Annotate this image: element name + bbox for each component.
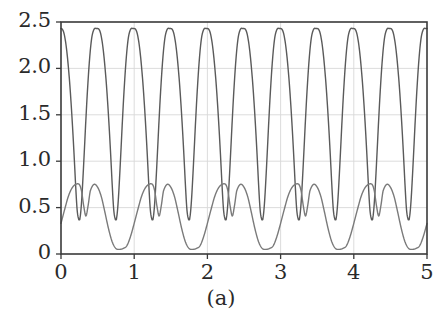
x-tick-label: 0: [41, 260, 81, 284]
x-tick-label: 5: [407, 260, 442, 284]
y-tick-label: 0.5: [18, 194, 51, 218]
y-tick-label: 1.0: [18, 147, 51, 171]
curve-lower-double-hump: [61, 184, 427, 250]
x-tick-label: 1: [114, 260, 154, 284]
x-tick-label: 4: [334, 260, 374, 284]
curve-upper-oscillation: [61, 28, 427, 220]
x-tick-label: 3: [261, 260, 301, 284]
data-curves: [61, 28, 427, 249]
y-tick-label: 2.5: [18, 8, 51, 32]
y-tick-label: 1.5: [18, 101, 51, 125]
figure-panel: 00.51.01.52.02.5 012345 (a): [0, 0, 442, 325]
axis-ticks: [56, 22, 427, 259]
y-tick-label: 2.0: [18, 54, 51, 78]
figure-caption: (a): [0, 286, 442, 310]
x-tick-label: 2: [187, 260, 227, 284]
